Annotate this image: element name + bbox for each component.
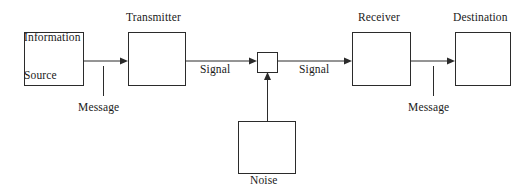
edge-label-signal-left: Signal [200,63,230,75]
information-source-label: Information Source [24,6,81,106]
transmitter-box[interactable] [129,33,186,86]
transmitter-label: Transmitter [126,11,181,24]
shannon-weaver-diagram: Information Source Transmitter Receiver … [0,0,527,193]
arrowhead-receiver-to-destination [447,58,455,65]
information-source-label-line2: Source [24,69,81,82]
edge-label-signal-right: Signal [299,63,329,75]
destination-label: Destination [453,11,508,24]
arrowhead-junction-to-receiver [344,58,352,65]
arrowhead-transmitter-to-junction [249,58,257,65]
noise-source-label: Noise [250,174,278,187]
receiver-box[interactable] [353,33,411,86]
edge-label-message-right: Message [408,101,449,113]
edge-label-message-left: Message [78,101,119,113]
arrowhead-noise-to-junction [264,72,271,80]
information-source-label-line1: Information [24,31,81,44]
noise-source-box[interactable] [239,122,296,174]
noise-junction-box[interactable] [258,53,278,73]
destination-box[interactable] [456,33,511,86]
arrowhead-source-to-transmitter [120,58,128,65]
receiver-label: Receiver [358,11,400,24]
